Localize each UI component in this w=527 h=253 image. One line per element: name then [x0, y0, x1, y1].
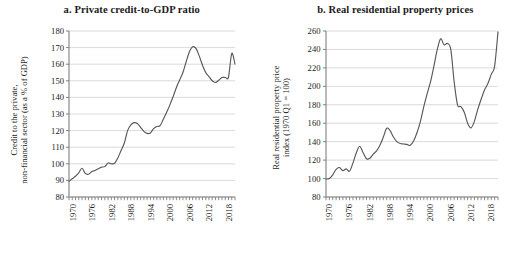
- panel-b-title: b. Real residential property prices: [264, 4, 527, 15]
- x-tick-label: 2000: [425, 204, 435, 221]
- y-tick-label: 140: [308, 137, 321, 147]
- y-tick-label: 200: [308, 81, 321, 91]
- panel-a-y-axis-label-line2: non-financial sector (as a % of GDP): [20, 30, 30, 210]
- y-tick-label: 160: [51, 59, 64, 69]
- panel-b-y-axis-label: Real residential property price index (1…: [272, 30, 291, 205]
- x-tick-label: 2012: [204, 204, 214, 221]
- y-tick-label: 90: [55, 175, 64, 185]
- y-tick-label: 80: [55, 192, 64, 202]
- y-tick-label: 220: [308, 63, 321, 73]
- y-tick-label: 80: [312, 192, 321, 202]
- y-tick-label: 100: [51, 159, 64, 169]
- panel-a-plot-area: [69, 31, 235, 197]
- panel-b-y-axis-label-line2: index (1970 Q1 = 100): [281, 30, 291, 205]
- y-tick-label: 100: [308, 174, 321, 184]
- panel-b-y-axis-label-line1: Real residential property price: [272, 30, 282, 205]
- x-tick-label: 1994: [405, 204, 415, 221]
- x-tick-label: 1994: [146, 204, 156, 221]
- panel-b-plot-area: [326, 31, 498, 197]
- panel-a-title: a. Private credit-to-GDP ratio: [0, 4, 264, 15]
- x-tick-label: 2006: [446, 204, 456, 221]
- data-series-line: [326, 32, 498, 179]
- y-tick-label: 110: [51, 142, 64, 152]
- panel-b-chart-svg: [326, 31, 498, 197]
- figure-two-panel-charts: a. Private credit-to-GDP ratio Credit to…: [0, 0, 527, 253]
- x-tick-label: 2012: [466, 204, 476, 221]
- x-tick-label: 2000: [165, 204, 175, 221]
- x-tick-label: 1988: [385, 204, 395, 221]
- y-tick-label: 160: [308, 118, 321, 128]
- panel-a-chart-svg: [69, 31, 235, 197]
- y-tick-label: 260: [308, 26, 321, 36]
- y-tick-label: 130: [51, 109, 64, 119]
- y-tick-label: 240: [308, 44, 321, 54]
- x-tick-label: 1982: [365, 204, 375, 221]
- x-tick-label: 2018: [486, 204, 496, 221]
- y-tick-label: 120: [51, 126, 64, 136]
- x-tick-label: 1988: [126, 204, 136, 221]
- y-tick-label: 180: [51, 26, 64, 36]
- panel-a-private-credit: a. Private credit-to-GDP ratio Credit to…: [0, 0, 264, 253]
- panel-b-property-prices: b. Real residential property prices Real…: [264, 0, 527, 253]
- y-tick-label: 170: [51, 43, 64, 53]
- y-tick-label: 120: [308, 155, 321, 165]
- x-tick-label: 1970: [68, 204, 78, 221]
- x-tick-label: 2018: [224, 204, 234, 221]
- x-tick-label: 1982: [107, 204, 117, 221]
- x-tick-label: 1976: [344, 204, 354, 221]
- y-tick-label: 150: [51, 76, 64, 86]
- x-tick-label: 2006: [185, 204, 195, 221]
- y-tick-label: 140: [51, 92, 64, 102]
- x-tick-label: 1970: [324, 204, 334, 221]
- y-tick-label: 180: [308, 100, 321, 110]
- panel-a-y-axis-label: Credit to the private, non-financial sec…: [10, 30, 29, 210]
- x-tick-label: 1976: [87, 204, 97, 221]
